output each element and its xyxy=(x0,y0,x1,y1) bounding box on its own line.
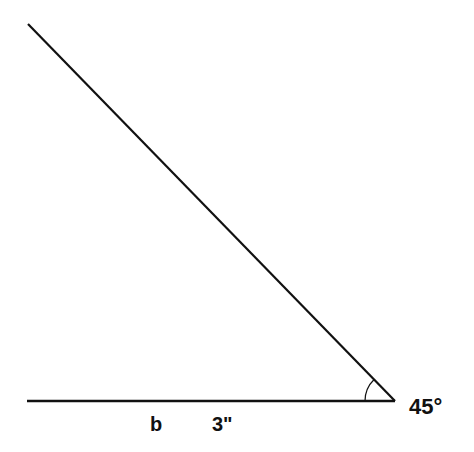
angle-label: 45° xyxy=(409,394,442,419)
diagonal-ray xyxy=(28,24,395,401)
side-label-length: 3" xyxy=(212,413,233,435)
side-label-letter: b xyxy=(150,413,162,435)
angle-arc xyxy=(365,380,374,402)
angle-diagram: 45° b 3" xyxy=(0,0,474,452)
